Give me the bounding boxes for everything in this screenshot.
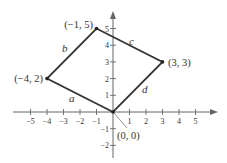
- origin-leader-line: [114, 113, 127, 128]
- x-tick-label: −5: [26, 117, 35, 126]
- y-tick-label: 3: [105, 58, 109, 67]
- x-tick-label: 2: [144, 117, 148, 126]
- side-label-c: c: [129, 35, 134, 47]
- coordinate-plane: −5 −4 −3 −2 −1 1 2 3 4 5 −2 −1 1 2 3 4 5: [0, 0, 227, 163]
- x-tick-label: −1: [92, 117, 101, 126]
- side-label-b: b: [62, 42, 68, 54]
- y-tick-label: 1: [105, 91, 109, 100]
- y-tick-label: 2: [105, 75, 109, 84]
- vertex-label-neg4-2: (−4, 2): [14, 73, 43, 85]
- side-label-d: d: [142, 83, 148, 95]
- x-axis: −5 −4 −3 −2 −1 1 2 3 4 5: [13, 109, 218, 126]
- y-axis-arrow-icon: [110, 11, 116, 19]
- y-tick-label: 4: [105, 41, 109, 50]
- x-tick-label: −3: [59, 117, 68, 126]
- y-tick-label: −1: [100, 125, 109, 134]
- vertex-label-neg1-5: (−1, 5): [64, 19, 93, 31]
- vertex-label-origin: (0, 0): [117, 130, 140, 142]
- x-tick-label: 3: [161, 117, 165, 126]
- quadrilateral: [45, 27, 164, 114]
- vertex-b-c: [95, 27, 99, 31]
- x-tick-label: −4: [43, 117, 52, 126]
- x-axis-arrow-icon: [210, 109, 218, 115]
- x-tick-label: −2: [76, 117, 85, 126]
- side-label-a: a: [69, 92, 75, 104]
- vertex-c-d: [161, 60, 165, 64]
- y-axis: −2 −1 1 2 3 4 5: [100, 11, 116, 158]
- x-tick-label: 4: [177, 117, 181, 126]
- vertex-label-3-3: (3, 3): [168, 57, 191, 69]
- x-tick-label: 1: [128, 117, 132, 126]
- vertex-a-b: [45, 77, 49, 81]
- x-tick-label: 5: [194, 117, 198, 126]
- y-tick-label: −2: [100, 141, 109, 150]
